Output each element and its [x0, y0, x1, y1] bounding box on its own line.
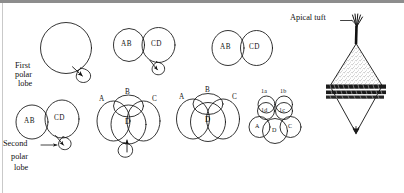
cell-label-1c-s6: 1c: [279, 107, 285, 113]
stage-eight-cell-micromeres: [249, 96, 301, 144]
second-polar-lobe-outline-s3: [118, 143, 132, 157]
cell-label-A-s5: A: [179, 94, 185, 102]
cell-label-C-s3: C: [152, 96, 157, 104]
trochophore-episphere: [330, 44, 382, 86]
cell-label-C-s5: C: [232, 94, 237, 102]
telotroch-tuft: [353, 127, 360, 135]
cell-label-1d-s6: 1d: [261, 107, 268, 113]
polar-lobe-outline-stage2: [152, 62, 165, 75]
stage-trochophore-larva: [326, 14, 386, 135]
cell-label-AB-s4b: AB: [24, 118, 35, 126]
apical-tuft-cilia: [353, 14, 363, 27]
second-polar-lobe-outline-s4b: [59, 137, 72, 150]
cell-label-CD-s4: CD: [249, 44, 260, 52]
cell-label-D-s3: D: [125, 119, 131, 127]
cell-label-CD-s2: CD: [151, 41, 162, 49]
apical-tuft-stalk: [356, 26, 357, 44]
cell-label-D-s5: D: [205, 117, 211, 125]
cell-label-1a-s6: 1a: [261, 88, 267, 94]
cell-label-A-s6: A: [255, 123, 260, 129]
zygote-cell-outline: [41, 23, 92, 74]
second-polar-lobe-callout-line3: lobe: [14, 164, 28, 173]
first-polar-lobe-callout-line3: lobe: [18, 80, 32, 89]
cell-label-CD-s4b: CD: [54, 115, 65, 123]
stage-zygote-with-first-polar-lobe: [41, 23, 92, 83]
cell-label-AB-s4: AB: [220, 44, 231, 52]
embryo-development-figure: [0, 0, 404, 193]
cell-label-A-s3: A: [99, 96, 105, 104]
stage-two-cell-with-polar-lobe: [114, 28, 176, 75]
cell-label-B-s5: B: [205, 87, 210, 95]
second-polar-lobe-callout-line1: Second: [3, 140, 27, 149]
second-polar-lobe-arrow-s4b: [56, 136, 64, 146]
second-polar-lobe-callout-line2: polar: [11, 153, 28, 162]
cell-label-AB-s2: AB: [121, 41, 132, 49]
cell-label-1b-s6: 1b: [280, 88, 287, 94]
cell-label-D-s6: D: [272, 127, 277, 133]
cell-label-C-s6: C: [288, 123, 292, 129]
cell-label-B-s3: B: [125, 89, 130, 97]
first-polar-lobe-outline: [76, 68, 90, 82]
apical-tuft-callout: Apical tuft: [290, 14, 326, 23]
